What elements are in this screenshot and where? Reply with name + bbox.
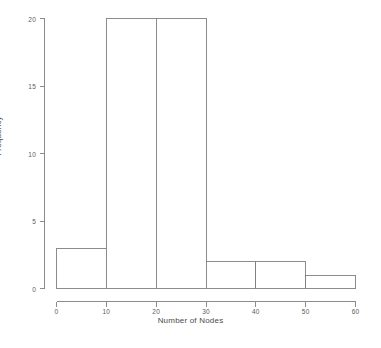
x-tick-label: 50 <box>302 308 310 315</box>
y-axis <box>40 19 45 289</box>
y-tick-label: 0 <box>20 285 36 292</box>
histogram-bar <box>256 262 306 289</box>
x-tick-label: 0 <box>55 308 59 315</box>
x-tick-label: 10 <box>103 308 111 315</box>
y-tick-label: 20 <box>20 15 36 22</box>
y-tick-label: 10 <box>20 150 36 157</box>
x-tick-label: 40 <box>252 308 260 315</box>
histogram-bar <box>156 19 206 289</box>
histogram-bar <box>206 262 256 289</box>
bars-group <box>57 19 356 289</box>
histogram-bar <box>57 248 107 289</box>
x-tick-label: 20 <box>152 308 160 315</box>
y-axis-title: Frequency <box>0 106 3 166</box>
histogram-bar <box>306 275 356 289</box>
y-tick-label: 5 <box>20 218 36 225</box>
plot-area <box>0 0 381 348</box>
x-tick-label: 60 <box>352 308 360 315</box>
x-tick-label: 30 <box>202 308 210 315</box>
x-axis-title: Number of Nodes <box>0 316 381 325</box>
x-axis <box>57 302 356 307</box>
histogram-chart: 05101520 0102030405060 Number of Nodes F… <box>0 0 381 348</box>
y-tick-label: 15 <box>20 83 36 90</box>
histogram-bar <box>106 19 156 289</box>
